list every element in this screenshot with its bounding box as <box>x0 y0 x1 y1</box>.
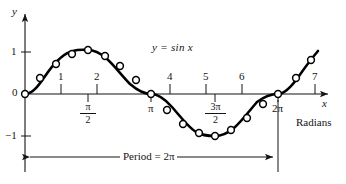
data-point-marker <box>260 101 267 108</box>
x-tick-label-7: 7 <box>312 71 318 82</box>
y-tick-label-1: 1 <box>11 46 17 57</box>
x-tick-label-pi-over-2: π 2 <box>80 102 96 125</box>
x-tick-label-pi: π <box>148 103 154 114</box>
data-point-marker <box>85 47 92 54</box>
x-tick-label-2pi: 2π <box>272 103 283 114</box>
fraction-numerator: 3π <box>205 102 226 113</box>
data-point-marker <box>37 75 44 82</box>
x-tick-label-1: 1 <box>58 71 64 82</box>
y-axis-label: y <box>12 6 17 17</box>
data-point-marker <box>180 121 187 128</box>
y-tick-label-minus-1: −1 <box>5 130 17 141</box>
data-point-marker <box>22 91 29 98</box>
x-axis-label: x <box>322 98 327 109</box>
data-point-marker <box>212 133 219 140</box>
fraction-denominator: 2 <box>205 114 226 125</box>
fraction-numerator: π <box>80 102 96 113</box>
x-tick-marks-below <box>88 94 278 102</box>
data-point-marker <box>196 130 203 137</box>
fraction-denominator: 2 <box>80 114 96 125</box>
data-point-marker <box>133 77 140 84</box>
data-point-markers <box>22 47 315 140</box>
x-tick-label-3pi-over-2: 3π 2 <box>205 102 226 125</box>
data-point-marker <box>164 107 171 114</box>
radians-unit-label: Radians <box>296 117 331 128</box>
data-point-marker <box>69 51 76 58</box>
x-tick-label-4: 4 <box>167 71 173 82</box>
data-point-marker <box>228 127 235 134</box>
data-point-marker <box>293 75 300 82</box>
x-tick-label-5: 5 <box>203 71 209 82</box>
data-point-marker <box>117 63 124 70</box>
data-point-marker <box>148 91 155 98</box>
x-tick-label-2: 2 <box>94 71 100 82</box>
data-point-marker <box>244 115 251 122</box>
x-tick-label-6: 6 <box>239 71 245 82</box>
data-point-marker <box>102 53 109 60</box>
sine-graph-figure: y x 1 0 −1 1 2 4 5 6 7 π 2 π 3π 2 2π y =… <box>0 0 346 184</box>
period-annotation-label: Period = 2π <box>120 151 177 162</box>
data-point-marker <box>53 61 60 68</box>
y-tick-label-0: 0 <box>12 87 18 98</box>
data-point-marker <box>308 57 315 64</box>
equation-annotation: y = sin x <box>152 42 193 53</box>
data-point-marker <box>275 91 282 98</box>
